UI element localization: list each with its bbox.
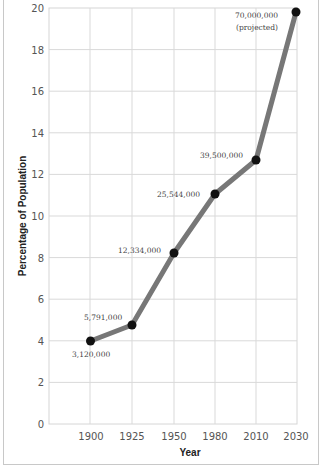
data-point-1980 bbox=[211, 190, 220, 199]
x-tick: 1950 bbox=[161, 431, 186, 442]
y-axis-title: Percentage of Population bbox=[17, 156, 28, 277]
data-point-1950 bbox=[170, 249, 179, 258]
x-axis-ticks: 1900 1925 1950 1980 2010 2030 bbox=[78, 431, 308, 442]
data-markers bbox=[86, 8, 301, 346]
y-tick: 12 bbox=[31, 169, 44, 180]
y-axis-ticks: 0 2 4 6 8 10 12 14 16 18 20 bbox=[31, 3, 44, 430]
y-tick: 2 bbox=[38, 377, 44, 388]
y-tick: 20 bbox=[31, 3, 44, 14]
data-point-2030 bbox=[292, 8, 301, 17]
x-tick: 1925 bbox=[119, 431, 144, 442]
y-tick: 16 bbox=[31, 86, 44, 97]
annotation-1980: 25,544,000 bbox=[157, 190, 200, 199]
line-chart: 0 2 4 6 8 10 12 14 16 18 20 1900 1925 19… bbox=[0, 0, 324, 469]
y-tick: 8 bbox=[38, 253, 44, 264]
annotation-2010: 39,500,000 bbox=[200, 151, 243, 160]
x-tick: 2010 bbox=[243, 431, 268, 442]
y-tick: 6 bbox=[38, 294, 44, 305]
annotation-1950: 12,334,000 bbox=[118, 246, 161, 255]
x-tick: 2030 bbox=[283, 431, 308, 442]
x-tick: 1900 bbox=[78, 431, 103, 442]
y-tick: 14 bbox=[31, 128, 44, 139]
y-tick: 0 bbox=[38, 419, 44, 430]
data-point-1900 bbox=[86, 337, 95, 346]
y-tick: 4 bbox=[38, 336, 44, 347]
horizontal-gridlines bbox=[49, 50, 297, 383]
y-tick: 18 bbox=[31, 45, 44, 56]
annotation-2030-note: (projected) bbox=[236, 23, 278, 32]
data-point-2010 bbox=[252, 156, 261, 165]
x-tick: 1980 bbox=[202, 431, 227, 442]
annotation-2030-value: 70,000,000 bbox=[235, 11, 278, 20]
x-axis-title: Year bbox=[179, 447, 200, 458]
data-line bbox=[91, 12, 297, 341]
annotation-1925: 5,791,000 bbox=[84, 313, 122, 322]
annotation-1900: 3,120,000 bbox=[72, 350, 110, 359]
data-point-1925 bbox=[128, 321, 137, 330]
y-tick: 10 bbox=[31, 211, 44, 222]
